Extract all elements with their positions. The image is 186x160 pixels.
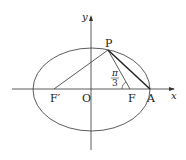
angle-arc (122, 82, 126, 89)
angle-denominator: 3 (112, 79, 118, 88)
segment-F-prime-P (54, 50, 108, 89)
point-label-F-prime: F′ (50, 93, 60, 104)
y-axis-label: y (82, 12, 88, 22)
ellipse-diagram: y x P F′ O F A π 3 (0, 0, 186, 160)
point-label-F: F (128, 93, 136, 104)
y-axis-arrow-icon (89, 15, 93, 21)
point-label-P: P (105, 38, 112, 49)
ellipse (33, 48, 150, 131)
angle-numerator: π (112, 69, 118, 78)
diagram-canvas (0, 0, 186, 160)
x-axis-label: x (171, 91, 177, 101)
point-label-O: O (82, 93, 91, 104)
point-label-A: A (147, 93, 155, 104)
